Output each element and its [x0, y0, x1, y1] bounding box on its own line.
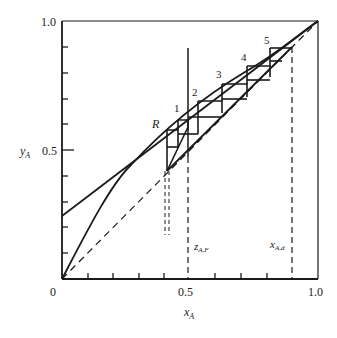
- stage-label-2: 2: [192, 86, 198, 98]
- lower-operating-line: [167, 47, 292, 171]
- upper-operating-line: [62, 21, 318, 216]
- point-r-label: R: [151, 117, 160, 131]
- y-axis-label: yA: [19, 144, 30, 160]
- y-tick-label-1: 1.0: [41, 15, 56, 29]
- stage-label-3: 3: [216, 68, 222, 80]
- y-tick-label-05: 0.5: [42, 144, 57, 158]
- product-composition-label: xA,d: [269, 238, 285, 252]
- stage-label-4: 4: [241, 51, 247, 63]
- x-tick-label-05: 0.5: [178, 285, 193, 299]
- stage-label-1: 1: [174, 102, 180, 114]
- mccabe-thiele-diagram: 1.0 0.5 yA 0 0.5 1.0 xA R 1 2 3 4 5 zA,F…: [0, 0, 337, 338]
- origin-label: 0: [50, 285, 56, 299]
- stage-label-5: 5: [264, 34, 270, 46]
- y-ticks: [62, 47, 74, 253]
- feed-composition-label: zA,F: [193, 240, 209, 254]
- x-tick-label-1: 1.0: [308, 285, 323, 299]
- x-axis-label: xA: [183, 305, 194, 321]
